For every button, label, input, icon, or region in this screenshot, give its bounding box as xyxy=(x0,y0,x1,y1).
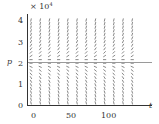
slope-segment xyxy=(104,73,106,75)
slope-segment xyxy=(95,91,96,94)
slope-segment xyxy=(76,55,79,57)
slope-segment xyxy=(49,98,50,101)
slope-segment xyxy=(30,48,32,51)
slope-segment xyxy=(40,101,41,104)
slope-segment xyxy=(39,48,41,51)
slope-segment xyxy=(57,69,59,71)
slope-segment xyxy=(58,26,59,29)
slope-segment xyxy=(30,80,31,83)
slope-segment xyxy=(95,33,96,36)
slope-segment xyxy=(113,22,114,25)
slope-segment xyxy=(104,76,106,79)
slope-segment xyxy=(122,66,125,67)
y-tick-4: 4 xyxy=(18,16,23,25)
slope-segment xyxy=(104,80,105,83)
slope-segment xyxy=(86,37,87,40)
slope-segment xyxy=(113,69,115,71)
slope-segment xyxy=(131,73,133,75)
slope-segment xyxy=(86,40,87,43)
slope-segment xyxy=(49,101,50,104)
slope-segment xyxy=(104,33,105,36)
slope-segment xyxy=(122,87,123,90)
slope-segment xyxy=(113,26,114,29)
slope-segment xyxy=(58,76,60,79)
slope-segment xyxy=(104,87,105,90)
slope-segment xyxy=(122,76,124,79)
slope-segment xyxy=(85,44,87,47)
slope-segment xyxy=(95,37,96,40)
slope-segment xyxy=(122,80,123,83)
slope-segment xyxy=(67,51,69,53)
slope-segment xyxy=(85,66,88,67)
slope-segment xyxy=(94,51,96,53)
slope-segment xyxy=(57,51,59,53)
slope-segment xyxy=(85,48,87,51)
slope-segment xyxy=(122,83,123,86)
slope-segment xyxy=(103,55,106,57)
slope-segment xyxy=(113,18,114,21)
slope-segment xyxy=(30,33,31,36)
slope-segment xyxy=(123,26,124,29)
slope-segment xyxy=(49,94,50,97)
slope-segment xyxy=(30,55,33,57)
slope-segment xyxy=(31,22,32,25)
slope-segment xyxy=(113,94,114,97)
slope-segment xyxy=(123,101,124,104)
slope-segment xyxy=(58,91,59,94)
slope-segment xyxy=(49,22,50,25)
slope-segment xyxy=(58,83,59,86)
slope-segment xyxy=(58,98,59,101)
slope-segment xyxy=(122,51,124,53)
slope-segment xyxy=(48,69,50,71)
slope-segment xyxy=(113,101,114,104)
slope-segment xyxy=(30,87,31,90)
slope-segment xyxy=(48,48,50,51)
slope-segment xyxy=(123,22,124,25)
slope-segment xyxy=(77,18,78,21)
slope-segment xyxy=(30,37,31,40)
slope-segment xyxy=(40,40,41,43)
slope-segment xyxy=(40,29,41,32)
slope-segment xyxy=(58,87,59,90)
x-tick-100: 100 xyxy=(101,111,116,120)
slope-segment xyxy=(113,48,115,51)
slope-segment xyxy=(104,101,105,104)
slope-segment xyxy=(67,48,69,51)
slope-segment xyxy=(113,73,115,75)
slope-segment xyxy=(85,80,86,83)
slope-segment xyxy=(131,51,133,53)
slope-segment xyxy=(113,91,114,94)
slope-segment xyxy=(39,51,41,53)
slope-segment xyxy=(48,73,50,75)
slope-segment xyxy=(95,76,97,79)
slope-segment xyxy=(58,80,59,83)
slope-segment xyxy=(49,83,50,86)
slope-segment xyxy=(104,98,105,101)
slope-segment xyxy=(66,55,69,57)
slope-segment xyxy=(86,101,87,104)
slope-segment xyxy=(85,73,87,75)
slope-segment xyxy=(104,91,105,94)
slope-segment xyxy=(30,40,31,43)
slope-segment xyxy=(77,94,78,97)
slope-segment xyxy=(40,37,41,40)
slope-segment xyxy=(113,40,114,43)
slope-segment xyxy=(39,44,41,47)
slope-segment xyxy=(123,98,124,101)
slope-segment xyxy=(67,98,68,101)
slope-segment xyxy=(48,55,51,57)
slope-segment xyxy=(86,26,87,29)
slope-segment xyxy=(95,40,96,43)
slope-segment xyxy=(94,55,97,57)
slope-segment xyxy=(67,37,68,40)
slope-segment xyxy=(31,91,32,94)
slope-segment xyxy=(95,26,96,29)
slope-segment xyxy=(76,40,77,43)
slope-segment xyxy=(86,87,87,90)
slope-segment xyxy=(30,66,33,67)
y-tick-0: 0 xyxy=(18,101,23,110)
slope-segment xyxy=(104,83,105,86)
slope-segment xyxy=(40,83,41,86)
slope-segment xyxy=(132,37,133,40)
slope-segment xyxy=(95,101,96,104)
